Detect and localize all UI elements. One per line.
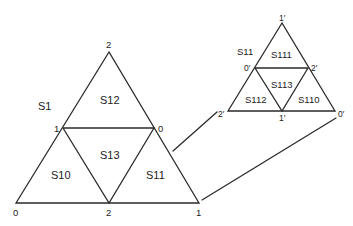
vertex-label-zoom-bottom-mid: 1′: [279, 113, 286, 123]
subregion-label-s13: S13: [100, 149, 120, 161]
vertex-label-apex: 2: [106, 39, 111, 50]
vertex-label-zoom-apex: 1′: [279, 13, 286, 23]
subregion-label-s113: S113: [271, 79, 292, 90]
vertex-label-bottom-mid: 2: [106, 207, 111, 218]
vertex-label-zoom-mid-right: 2′: [311, 63, 318, 73]
large-triangle: [16, 52, 199, 203]
vertex-label-zoom-bottom-left: 2′: [218, 109, 225, 119]
region-label-s1: S1: [38, 100, 51, 112]
large-triangle-inner: [63, 128, 154, 203]
subregion-label-s11: S11: [146, 169, 165, 181]
vertex-label-bottom-right: 1: [196, 207, 201, 218]
vertex-label-mid-left: 1: [54, 123, 59, 134]
connector-line-upper: [173, 112, 217, 151]
subregion-label-s110: S110: [298, 94, 319, 105]
connector-line-lower: [202, 118, 336, 200]
vertex-label-zoom-mid-left: 0′: [244, 63, 251, 73]
vertex-label-mid-right: 0: [158, 123, 163, 134]
vertex-label-bottom-left: 0: [13, 207, 18, 218]
subregion-label-s12: S12: [100, 94, 120, 106]
region-label-s11-zoom: S11: [237, 46, 253, 57]
subregion-label-s112: S112: [245, 94, 266, 105]
subregion-label-s111: S111: [271, 49, 292, 60]
diagram-canvas: S1 S12 S13 S10 S11 2 1 0 0 2 1 S11 S111 …: [0, 0, 353, 226]
vertex-label-zoom-bottom-right: 0′: [338, 109, 345, 119]
subregion-label-s10: S10: [51, 169, 71, 181]
